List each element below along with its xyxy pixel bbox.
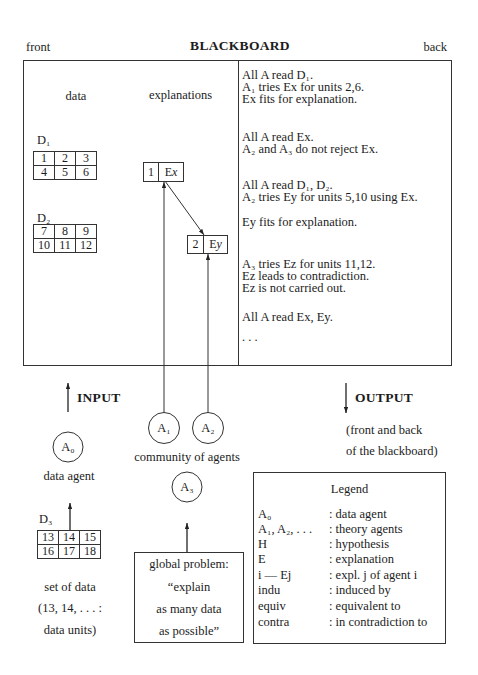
data-cell: 5 <box>55 166 76 180</box>
data-source-caption-line: set of data <box>10 580 130 594</box>
explanations-column-header: explanations <box>149 88 212 102</box>
legend-box: Legend A₀ : data agent A₁, A₂, . . . : t… <box>253 472 446 644</box>
explanation-ex-box: 1 Ex <box>143 162 184 182</box>
data-cell: 12 <box>76 239 97 253</box>
legend-symbol: indu <box>258 583 280 597</box>
dataset-d3-table: 13 14 15 16 17 18 <box>37 530 101 559</box>
output-note-line: of the blackboard) <box>346 444 438 458</box>
data-cell: 14 <box>59 531 80 545</box>
data-cell: 13 <box>38 531 59 545</box>
legend-symbol: i — Ej <box>258 568 291 582</box>
data-source-caption-line: (13, 14, . . . : <box>10 601 130 615</box>
data-cell: 1 <box>34 152 55 166</box>
explanation-agent-number: 2 <box>188 236 204 253</box>
log-line: Ex fits for explanation. <box>242 92 357 106</box>
log-line: A₂ tries Ey for units 5,10 using Ex. <box>242 190 418 204</box>
log-line: . . . <box>242 330 258 344</box>
data-cell: 2 <box>55 152 76 166</box>
global-problem-line: “explain <box>135 580 243 594</box>
legend-meaning: : theory agents <box>329 522 403 536</box>
data-column-header: data <box>52 89 100 103</box>
legend-meaning: : expl. j of agent i <box>329 568 417 582</box>
dataset-d2-table: 7 8 9 10 11 12 <box>33 224 97 253</box>
legend-symbol: equiv <box>258 599 286 613</box>
agent-a1-label: A₁ <box>149 421 179 435</box>
data-cell: 4 <box>34 166 55 180</box>
legend-symbol: A₀ <box>258 507 271 521</box>
data-cell: 3 <box>76 152 97 166</box>
explanation-letter: E <box>209 237 216 251</box>
blackboard-divider <box>238 60 239 366</box>
input-label: INPUT <box>77 391 121 405</box>
data-cell: 17 <box>59 545 80 559</box>
data-cell: 7 <box>34 225 55 239</box>
explanation-name: Ex <box>159 163 183 181</box>
dataset-d3-label: D₃ <box>39 512 52 526</box>
legend-meaning: : induced by <box>329 583 391 597</box>
data-cell: 15 <box>80 531 101 545</box>
data-cell: 8 <box>55 225 76 239</box>
diagram-title: BLACKBOARD <box>140 39 340 53</box>
legend-meaning: : data agent <box>329 507 387 521</box>
explanation-variable: y <box>217 237 222 251</box>
log-line: A₂ and A₃ do not reject Ex. <box>242 142 378 156</box>
explanation-variable: x <box>172 165 177 179</box>
data-source-caption-line: data units) <box>10 623 130 637</box>
global-problem-line: as many data <box>135 602 243 616</box>
legend-title: Legend <box>254 482 445 496</box>
output-label: OUTPUT <box>355 391 413 405</box>
data-cell: 11 <box>55 239 76 253</box>
log-line: Ez is not carried out. <box>242 281 346 295</box>
legend-symbol: A₁, A₂, . . . <box>258 522 312 536</box>
data-cell: 16 <box>38 545 59 559</box>
legend-meaning: : explanation <box>329 552 394 566</box>
legend-symbol: contra <box>258 615 289 629</box>
front-label: front <box>26 40 50 54</box>
blackboard-diagram: front BLACKBOARD back data explanations … <box>0 0 478 675</box>
data-cell: 10 <box>34 239 55 253</box>
data-cell: 18 <box>80 545 101 559</box>
legend-meaning: : hypothesis <box>329 537 389 551</box>
global-problem-line: as possible” <box>135 624 243 638</box>
community-caption: community of agents <box>107 450 267 464</box>
dataset-d1-label: D₁ <box>37 133 50 147</box>
legend-meaning: : in contradiction to <box>329 615 427 629</box>
data-agent-caption: data agent <box>29 469 109 483</box>
legend-symbol: E <box>258 552 266 566</box>
data-cell: 6 <box>76 166 97 180</box>
explanation-name: Ey <box>204 236 227 253</box>
log-line: Ey fits for explanation. <box>242 215 357 229</box>
dataset-d2-label: D₂ <box>37 211 50 225</box>
global-problem-line: global problem: <box>135 557 243 571</box>
legend-meaning: : equivalent to <box>329 599 401 613</box>
agent-a3-label: A₃ <box>172 480 202 494</box>
agent-a0-label: A₀ <box>53 440 83 454</box>
output-note-line: (front and back <box>346 423 422 437</box>
explanation-ey-box: 2 Ey <box>187 235 228 254</box>
dataset-d1-table: 1 2 3 4 5 6 <box>33 151 97 180</box>
global-problem-box: global problem: “explain as many data as… <box>134 552 244 643</box>
legend-symbol: H <box>258 537 267 551</box>
back-label: back <box>423 40 447 54</box>
agent-a2-label: A₂ <box>193 421 223 435</box>
explanation-letter: E <box>165 165 172 179</box>
log-line: All A read Ex, Ey. <box>242 310 333 324</box>
data-cell: 9 <box>76 225 97 239</box>
explanation-agent-number: 1 <box>144 163 159 181</box>
